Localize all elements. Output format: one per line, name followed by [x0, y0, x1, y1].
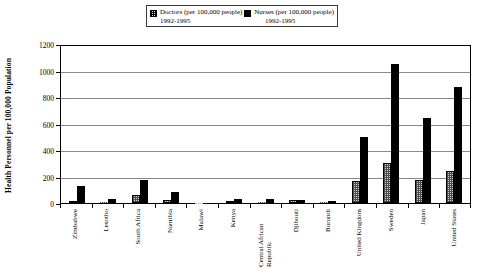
x-axis-label: United Kingdom	[357, 209, 365, 256]
x-tick	[408, 204, 440, 208]
x-tick	[155, 204, 187, 208]
bar-doctors	[320, 202, 328, 203]
bar-nurses	[297, 200, 305, 203]
legend-years-doctors: 1992-1995	[150, 17, 190, 26]
bar-group	[439, 46, 470, 203]
legend-entry-nurses: Nurses (per 100,000 people)	[244, 8, 334, 17]
y-tick-label: 1000	[20, 68, 54, 76]
x-tick	[60, 204, 92, 208]
x-label-cell: Japan	[408, 209, 440, 271]
bar-nurses	[328, 201, 336, 203]
bar-nurses	[423, 118, 431, 203]
bar-doctors	[383, 163, 391, 203]
x-axis-label: Japan	[420, 209, 428, 225]
x-tick	[313, 204, 345, 208]
x-axis-label: Lesotho	[104, 209, 112, 232]
x-tick	[250, 204, 282, 208]
bar-nurses	[171, 192, 179, 203]
x-axis-label: South Africa	[135, 209, 143, 245]
y-tick-label: 600	[20, 121, 54, 129]
x-tick	[218, 204, 250, 208]
bar-nurses	[77, 186, 85, 203]
y-tick-label: 800	[20, 95, 54, 103]
legend-entry-doctors: Doctors (per 100,000 people)	[150, 8, 244, 17]
bar-doctors	[226, 201, 234, 203]
x-label-cell: Malawi	[186, 209, 218, 271]
x-tick	[344, 204, 376, 208]
x-axis-label: Djibouti	[293, 209, 301, 232]
x-axis-label: United States	[451, 209, 459, 247]
x-label-cell: Burundi	[313, 209, 345, 271]
bar-group	[344, 46, 375, 203]
x-tick	[123, 204, 155, 208]
x-axis-label: Kenya	[230, 209, 238, 227]
chart-figure: Doctors (per 100,000 people) Nurses (per…	[0, 0, 484, 273]
bar-nurses	[454, 87, 462, 203]
x-axis-label: Sweden	[388, 209, 396, 231]
bar-group	[250, 46, 281, 203]
legend-years-doctors-wrap: 1992-1995	[150, 17, 255, 26]
bar-nurses	[234, 199, 242, 203]
doctors-swatch-icon	[150, 10, 157, 17]
bar-doctors	[415, 180, 423, 203]
bar-nurses	[391, 64, 399, 203]
legend-years-row: 1992-1995 1992-1995	[150, 17, 334, 26]
y-axis-title-text: Health Personnel per 100,000 Population	[4, 58, 13, 193]
bar-group	[61, 46, 92, 203]
chart-legend: Doctors (per 100,000 people) Nurses (per…	[146, 5, 338, 27]
legend-label-nurses: Nurses (per 100,000 people)	[254, 8, 334, 17]
y-axis-title: Health Personnel per 100,000 Population	[2, 44, 14, 206]
bar-group	[218, 46, 249, 203]
bar-group	[187, 46, 218, 203]
x-label-cell: South Africa	[123, 209, 155, 271]
bar-nurses	[266, 199, 274, 203]
bar-nurses	[108, 199, 116, 203]
x-axis-label: Burundi	[325, 209, 333, 232]
x-label-cell: Lesotho	[92, 209, 124, 271]
legend-labels-row: Doctors (per 100,000 people) Nurses (per…	[150, 8, 334, 17]
x-label-cell: United Kingdom	[344, 209, 376, 271]
bar-doctors	[258, 202, 266, 203]
bar-doctors	[69, 201, 77, 203]
bar-group	[124, 46, 155, 203]
x-axis-ticks	[60, 204, 471, 208]
nurses-swatch-icon	[244, 10, 251, 17]
x-tick	[439, 204, 471, 208]
x-axis-labels: ZimbabweLesothoSouth AfricaNamibiaMalawi…	[60, 209, 471, 271]
x-tick	[186, 204, 218, 208]
bar-doctors	[163, 200, 171, 203]
legend-label-doctors: Doctors (per 100,000 people)	[160, 8, 242, 17]
x-axis-label: Zimbabwe	[72, 209, 80, 239]
x-label-cell: Central African Republic	[250, 209, 282, 271]
x-tick	[281, 204, 313, 208]
bar-group	[313, 46, 344, 203]
bar-group	[155, 46, 186, 203]
bar-group	[407, 46, 438, 203]
x-axis-label: Malawi	[198, 209, 206, 230]
bar-group	[281, 46, 312, 203]
legend-years-nurses: 1992-1995	[255, 17, 295, 26]
x-label-cell: Sweden	[376, 209, 408, 271]
x-axis-label: Namibia	[167, 209, 175, 233]
legend-years-nurses-wrap: 1992-1995	[255, 17, 295, 26]
bar-group	[376, 46, 407, 203]
bar-group	[92, 46, 123, 203]
bar-groups	[61, 46, 470, 203]
y-tick-label: 400	[20, 148, 54, 156]
x-label-cell: Djibouti	[281, 209, 313, 271]
x-axis-label: Central African Republic	[258, 209, 273, 267]
bar-doctors	[132, 195, 140, 203]
y-tick-label: 0	[20, 201, 54, 209]
bar-doctors	[289, 200, 297, 203]
x-tick	[376, 204, 408, 208]
y-tick-label: 200	[20, 174, 54, 182]
bar-doctors	[446, 171, 454, 203]
bar-nurses	[140, 180, 148, 203]
x-label-cell: Namibia	[155, 209, 187, 271]
x-label-cell: United States	[439, 209, 471, 271]
x-label-cell: Kenya	[218, 209, 250, 271]
x-tick	[92, 204, 124, 208]
plot-area	[60, 45, 471, 204]
bar-doctors	[100, 202, 108, 203]
bar-doctors	[352, 181, 360, 203]
